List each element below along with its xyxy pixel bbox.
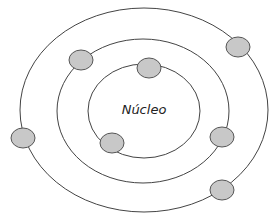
electron-outer xyxy=(226,37,250,57)
electron-outer xyxy=(11,128,35,148)
electron-middle xyxy=(210,127,234,147)
atom-diagram: Núcleo xyxy=(0,0,278,224)
electron-inner xyxy=(137,58,161,78)
electron-middle xyxy=(69,50,93,70)
nucleus-label: Núcleo xyxy=(122,102,167,117)
electron-outer xyxy=(210,180,234,200)
electrons xyxy=(11,37,250,200)
atom-diagram-svg: Núcleo xyxy=(0,0,278,224)
electron-inner xyxy=(100,133,124,153)
